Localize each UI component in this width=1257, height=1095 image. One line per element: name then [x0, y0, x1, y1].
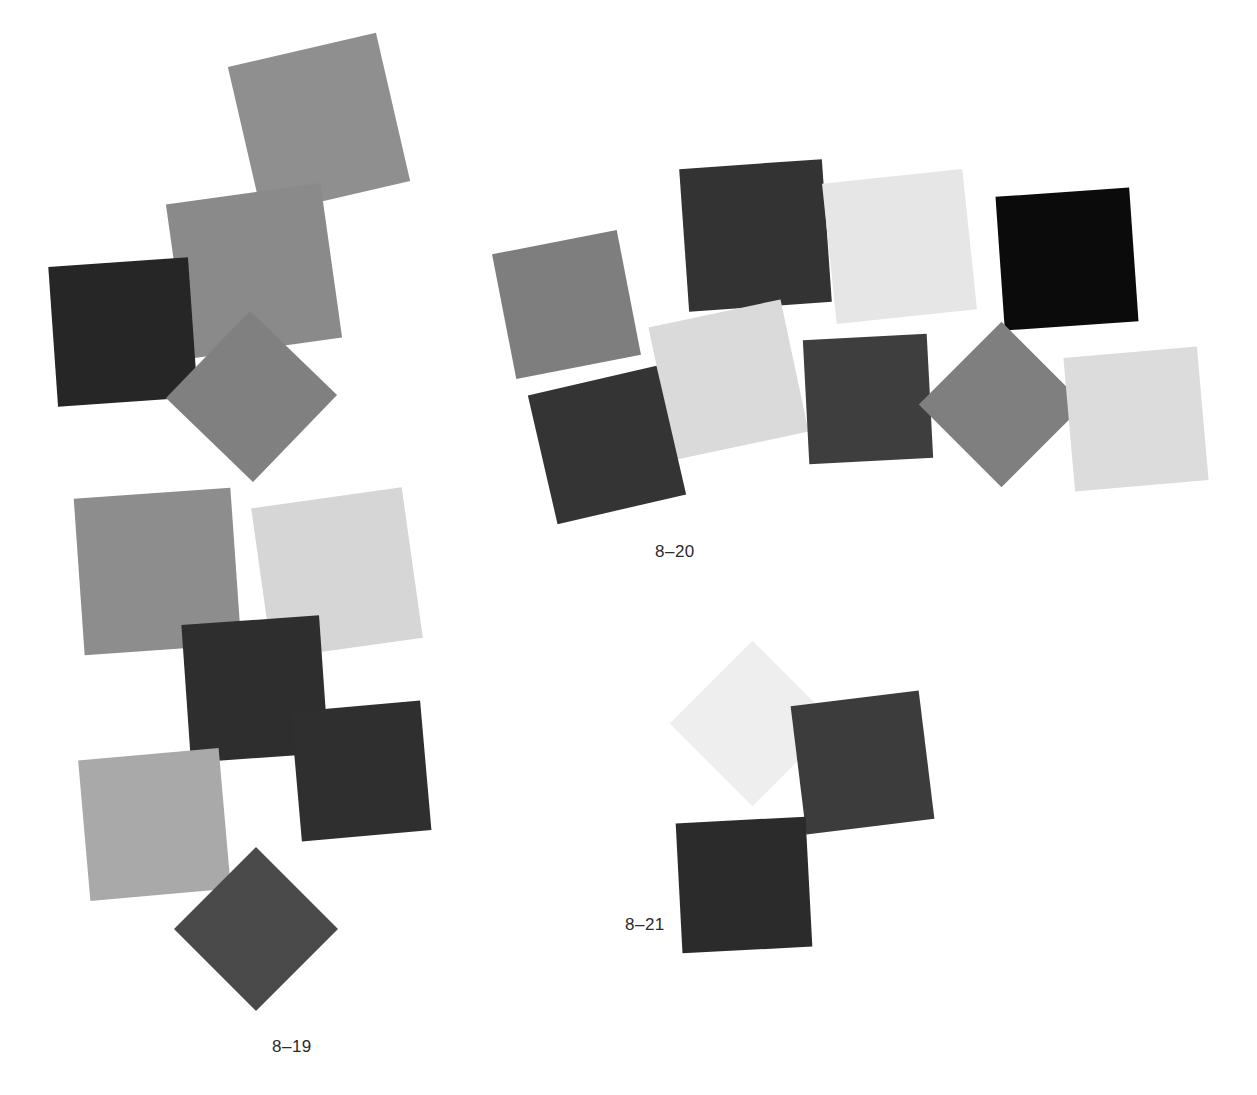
figure-group-8-21: 8–21: [0, 0, 1257, 1095]
figure-label-fig-8-21: 8–21: [625, 916, 665, 933]
square-darkest-bottom: [676, 817, 813, 954]
square-dark-gray-right: [791, 691, 935, 835]
figure-sheet: 8–19 8–20 8–21: [0, 0, 1257, 1095]
